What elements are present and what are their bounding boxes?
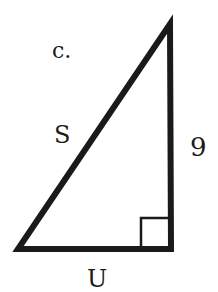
problem-label: c. (52, 38, 71, 63)
right-angle-marker (141, 218, 171, 249)
horizontal-leg-label: U (87, 265, 107, 292)
hypotenuse-label: S (54, 121, 70, 149)
vertical-leg-label: 9 (190, 132, 207, 162)
right-triangle (18, 24, 171, 249)
triangle-figure: c. S 9 U (0, 0, 218, 292)
